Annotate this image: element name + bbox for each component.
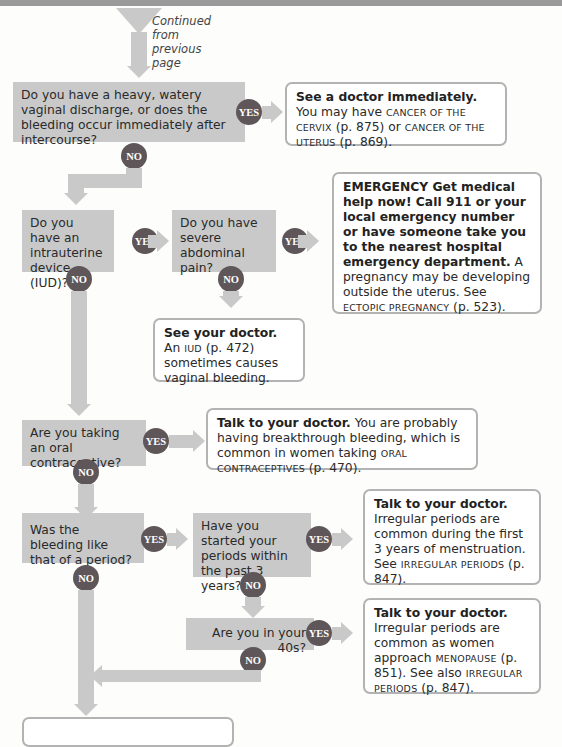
connector	[102, 670, 261, 682]
result-r3: See your doctor. An IUD (p. 472) sometim…	[153, 318, 305, 382]
connector	[169, 435, 195, 448]
no-badge: NO	[73, 565, 99, 591]
question-q2: Do you have an intrauterine device (IUD)…	[22, 210, 114, 272]
connector	[78, 484, 94, 508]
result-r1: See a doctor immediately. You may have C…	[285, 82, 507, 146]
arrow-down-icon	[64, 193, 88, 205]
no-badge: NO	[66, 266, 92, 292]
question-q1: Do you have a heavy, watery vaginal disc…	[13, 82, 245, 142]
question-q6: Have you started your periods within the…	[193, 513, 311, 577]
yes-badge: YES	[306, 620, 332, 646]
arrow-down-icon	[74, 704, 98, 716]
connector	[68, 174, 84, 194]
arrow-right-icon	[341, 622, 353, 644]
question-q3: Do you have severe abdominal pain?	[172, 210, 276, 272]
result-r6: Talk to your doctor. Irregular periods a…	[363, 598, 541, 694]
result-r4: Talk to your doctor. You are probably ha…	[206, 408, 478, 470]
result-r2: EMERGENCY Get medical help now! Call 911…	[332, 172, 542, 314]
arrow-right-icon	[193, 430, 205, 452]
yes-badge: YES	[143, 428, 169, 454]
question-q5: Was the bleeding like that of a period?	[22, 513, 144, 563]
arrow-down-icon	[241, 606, 265, 618]
question-q7: Are you in your 40s?	[186, 618, 314, 650]
arrow-down-icon	[127, 66, 151, 78]
yes-badge: YES	[306, 526, 332, 552]
yes-badge: YES	[236, 99, 262, 125]
no-badge: NO	[73, 459, 99, 485]
continued-note: Continued from previous page	[152, 14, 232, 70]
connector	[71, 291, 87, 405]
page-header-bar	[0, 0, 562, 6]
connector	[131, 32, 147, 67]
arrow-right-icon	[341, 528, 353, 550]
no-badge: NO	[121, 143, 147, 169]
no-badge: NO	[218, 266, 244, 292]
connector	[78, 590, 94, 705]
result-r5: Talk to your doctor. Irregular periods a…	[363, 489, 541, 585]
no-badge: NO	[240, 572, 266, 598]
yes-badge: YES	[141, 526, 167, 552]
arrow-down-icon	[67, 404, 91, 416]
arrow-right-icon	[271, 101, 283, 123]
arrow-right-icon	[176, 528, 188, 550]
result-bottom-partial	[22, 717, 234, 747]
arrow-right-icon	[307, 230, 319, 252]
arrow-right-icon	[157, 230, 169, 252]
arrow-down-icon	[219, 296, 243, 308]
